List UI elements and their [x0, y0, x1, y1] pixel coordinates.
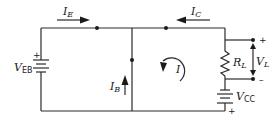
veb-plus-sign: +: [33, 50, 41, 60]
junction-dot-base: [130, 58, 134, 62]
ic-label: IC: [190, 5, 201, 19]
vl-minus-sign: –: [259, 75, 264, 85]
vl-plus-terminal: [251, 38, 255, 42]
vcc-plus-sign: +: [228, 106, 236, 116]
ib-arrow-icon: [122, 75, 129, 95]
vcc-label: VCC: [236, 90, 256, 104]
resistor-rl-icon: [221, 48, 229, 76]
ie-label: IE: [62, 5, 73, 19]
wires: [41, 28, 225, 111]
loop-current-arrow-icon: [160, 58, 185, 81]
junction-dot-emitter: [95, 26, 99, 30]
battery-veb-icon: [33, 60, 49, 72]
circuit-svg: + VEB IE IC IB I RL: [0, 0, 275, 122]
veb-label: VEB: [14, 61, 33, 75]
ie-arrow-icon: [57, 17, 90, 24]
junction-dot-collector: [164, 26, 168, 30]
vl-minus-terminal: [251, 77, 255, 81]
loop-current-label: I: [175, 63, 181, 76]
vl-plus-sign: +: [259, 35, 267, 45]
vl-label: VL: [256, 55, 269, 69]
circuit-diagram: + VEB IE IC IB I RL: [0, 0, 275, 122]
ib-label: IB: [109, 80, 120, 94]
rl-label: RL: [232, 56, 247, 70]
battery-vcc-icon: [217, 90, 233, 103]
